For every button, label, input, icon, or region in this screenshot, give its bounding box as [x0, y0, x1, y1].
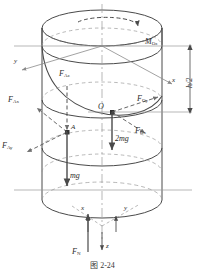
moment-label-Moz: MOz	[145, 38, 157, 47]
force-vectors-at-A	[27, 86, 67, 186]
moment-Moz-arc	[78, 17, 138, 26]
reference-axis-lines	[14, 4, 192, 240]
force-label-FAx: FAx	[8, 96, 19, 105]
point-label-A: A	[71, 124, 75, 131]
axis-label-y-upper: y	[14, 58, 17, 65]
force-label-FAz: FAz	[59, 70, 70, 79]
weight-label-mg: mg	[70, 172, 80, 180]
weight-label-2mg: 2mg	[115, 135, 129, 143]
diagram-canvas	[0, 0, 205, 269]
force-label-FOx: FOx	[135, 127, 146, 136]
axis-label-x-upper: x	[172, 77, 175, 84]
point-label-O: O	[98, 103, 104, 111]
axis-label-y-base: y	[124, 205, 127, 212]
axis-label-z-base: z	[106, 243, 109, 250]
axis-label-x-base: x	[81, 205, 84, 212]
mechanics-free-body-diagram: MOz y x FAz FAx FAy O A FOy FOx 2mg mg x…	[0, 0, 205, 269]
dimension-label-h2: h/2	[186, 78, 194, 88]
force-label-FN: FN	[72, 248, 80, 257]
force-label-FOy: FOy	[137, 95, 148, 104]
figure-caption: 图 2-24	[0, 259, 205, 269]
force-label-FAy: FAy	[2, 142, 13, 151]
